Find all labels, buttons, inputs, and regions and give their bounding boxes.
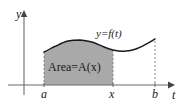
- y-axis-label: y: [16, 8, 21, 20]
- tick-label-x: x: [109, 88, 114, 100]
- t-axis-label: t: [172, 89, 175, 101]
- y-axis-arrowhead: [21, 10, 27, 17]
- area-region-label: Area=A(x): [48, 61, 101, 73]
- curve-function-label: y=f(t): [96, 28, 122, 39]
- figure-container: y t y=f(t) Area=A(x) a x b: [0, 0, 183, 111]
- tick-label-a: a: [41, 88, 47, 100]
- tick-label-b: b: [152, 88, 158, 100]
